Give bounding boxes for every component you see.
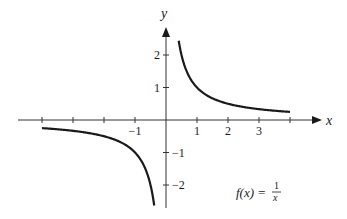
formula-numerator: 1 bbox=[274, 180, 279, 191]
formula-lhs: f(x) = bbox=[236, 185, 266, 200]
x-tick-label: −1 bbox=[129, 124, 142, 138]
function-plot: −112321−1−2 x y f(x) = 1 x bbox=[0, 0, 347, 219]
x-axis-label: x bbox=[325, 113, 333, 128]
y-tick-label: 2 bbox=[154, 48, 160, 62]
y-axis-label: y bbox=[159, 6, 168, 21]
y-tick-label: −2 bbox=[172, 178, 185, 192]
y-tick-label: −1 bbox=[172, 146, 185, 160]
y-axis-arrow-icon bbox=[162, 27, 170, 37]
curve-right-branch bbox=[179, 41, 290, 112]
curve-left-branch bbox=[42, 128, 154, 205]
x-tick-label: 3 bbox=[256, 124, 262, 138]
labels: x y f(x) = 1 x bbox=[159, 6, 333, 203]
x-tick-label: 1 bbox=[194, 124, 200, 138]
x-axis-arrow-icon bbox=[312, 116, 322, 124]
x-tick-label: 2 bbox=[225, 124, 231, 138]
y-tick-label: 1 bbox=[154, 81, 160, 95]
formula-denominator: x bbox=[272, 192, 278, 203]
function-formula: f(x) = 1 x bbox=[236, 180, 281, 203]
